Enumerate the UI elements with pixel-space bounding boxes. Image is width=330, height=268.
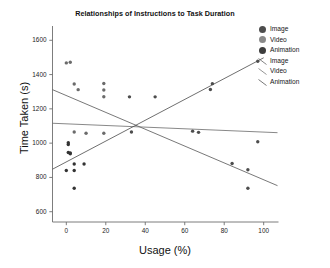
x-tick-label: 60 [173, 227, 197, 234]
legend-line-icon [258, 67, 267, 76]
x-tick-label: 0 [54, 227, 78, 234]
data-point-image [130, 130, 133, 133]
legend-line-icon [258, 57, 267, 66]
legend-item-image-dot[interactable]: Image [258, 24, 299, 35]
data-point-video [102, 82, 105, 85]
legend-item-video-dot[interactable]: Video [258, 35, 299, 46]
data-point-animation [82, 162, 85, 165]
legend-item-animation-line[interactable]: Animation [258, 77, 299, 88]
data-point-image [128, 95, 131, 98]
data-point-image [209, 88, 212, 91]
data-point-animation [73, 169, 76, 172]
legend-marker-icon [258, 25, 267, 34]
trendline-image [53, 90, 278, 186]
data-point-video [65, 61, 68, 64]
chart-title: Relationships of Instructions to Task Du… [40, 9, 270, 18]
data-point-video [102, 88, 105, 91]
data-point-animation [65, 169, 68, 172]
data-point-animation [69, 152, 72, 155]
data-point-video [76, 88, 79, 91]
y-tick-label: 1000 [23, 139, 47, 146]
legend-line-icon [258, 78, 267, 87]
data-point-animation [73, 187, 76, 190]
line-icon [258, 57, 267, 66]
data-point-image [256, 140, 259, 143]
data-point-video [102, 132, 105, 135]
y-axis-label: Time Taken (s) [18, 48, 30, 188]
circle-icon [259, 26, 266, 33]
legend-marker-icon [258, 46, 267, 55]
legend-label: Animation [270, 47, 299, 54]
legend-label: Video [270, 68, 287, 75]
data-point-image [246, 168, 249, 171]
legend-marker-icon [258, 35, 267, 44]
y-tick-label: 1600 [23, 36, 47, 43]
data-point-animation [73, 162, 76, 165]
line-icon [258, 67, 267, 76]
legend-label: Image [270, 26, 288, 33]
x-tick-label: 20 [94, 227, 118, 234]
legend-item-video-line[interactable]: Video [258, 66, 299, 77]
circle-icon [259, 36, 266, 43]
legend-label: Image [270, 58, 288, 65]
legend-item-animation-dot[interactable]: Animation [258, 45, 299, 56]
x-tick-label: 80 [212, 227, 236, 234]
line-icon [258, 78, 267, 87]
y-tick-label: 800 [23, 173, 47, 180]
data-point-video [69, 61, 72, 64]
chart-figure: Relationships of Instructions to Task Du… [0, 0, 330, 268]
data-point-image [197, 131, 200, 134]
data-point-video [102, 95, 105, 98]
circle-icon [259, 47, 266, 54]
legend-item-image-line[interactable]: Image [258, 56, 299, 67]
y-tick-label: 1200 [23, 105, 47, 112]
data-point-video [73, 82, 76, 85]
data-point-image [230, 162, 233, 165]
x-tick-label: 40 [133, 227, 157, 234]
x-tick-label: 100 [252, 227, 276, 234]
trendline-animation [53, 58, 264, 169]
x-axis-label: Usage (%) [52, 244, 278, 256]
data-point-image [211, 82, 214, 85]
legend-label: Video [270, 37, 287, 44]
data-point-image [191, 129, 194, 132]
data-point-video [73, 130, 76, 133]
legend-label: Animation [270, 79, 299, 86]
data-point-image [153, 95, 156, 98]
y-tick-label: 600 [23, 208, 47, 215]
y-tick-label: 1400 [23, 71, 47, 78]
trendline-video [53, 123, 278, 132]
data-point-animation [67, 143, 70, 146]
data-point-image [246, 187, 249, 190]
chart-legend: ImageVideoAnimationImageVideoAnimation [258, 24, 299, 88]
data-point-video [84, 132, 87, 135]
